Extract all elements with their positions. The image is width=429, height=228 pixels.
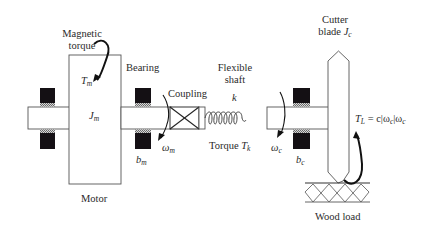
bearing-label: Bearing	[126, 62, 159, 74]
bm-label: bm	[136, 154, 147, 169]
omega-m-label: ωm	[162, 142, 175, 157]
cutter-blade	[328, 51, 349, 183]
drive-train-diagram: Magnetic torque Tm Jm Bearing Coupling F…	[0, 0, 429, 228]
motor-output-shaft	[121, 107, 171, 129]
omega-c-label: ωc	[271, 142, 282, 157]
jm-label: Jm	[89, 110, 99, 125]
spring-constant-label: k	[232, 92, 237, 104]
load-torque-equation: TL = c|ωc|ωc	[355, 113, 406, 128]
left-shaft	[28, 107, 70, 129]
wood-load	[305, 183, 370, 202]
cutter-blade-label: Cutter blade Jc	[310, 14, 360, 41]
torque-tk-label: Torque Tk	[209, 140, 250, 155]
spring-flexible-shaft	[205, 112, 246, 124]
tm-label: Tm	[81, 75, 92, 90]
motor-label: Motor	[81, 193, 107, 205]
coupling-label: Coupling	[168, 88, 207, 100]
bc-label: bc	[296, 154, 305, 169]
flexible-shaft-label: Flexible shaft	[210, 62, 260, 86]
blade-shaft	[267, 107, 329, 129]
magnetic-torque-label: Magnetic torque	[52, 28, 112, 52]
wood-load-label: Wood load	[315, 211, 361, 223]
coupling	[170, 107, 205, 129]
